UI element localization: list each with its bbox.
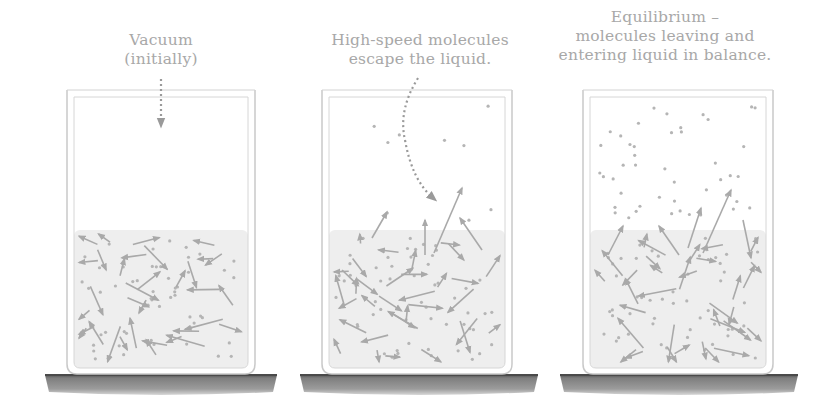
molecule <box>713 322 716 325</box>
molecule <box>94 357 97 360</box>
molecule <box>462 323 465 326</box>
molecule <box>427 263 430 266</box>
molecule <box>649 299 652 302</box>
vapor-molecule <box>732 208 735 211</box>
molecule <box>81 280 84 283</box>
molecule <box>185 342 188 345</box>
molecule <box>99 333 102 336</box>
vapor-molecule <box>729 174 732 177</box>
vapor-molecule <box>599 144 602 147</box>
molecule <box>657 255 660 258</box>
molecule <box>704 237 707 240</box>
molecule <box>635 257 638 260</box>
molecule <box>159 265 162 268</box>
molecule <box>636 295 639 298</box>
molecule <box>671 290 674 293</box>
molecule <box>374 300 377 303</box>
molecule <box>386 256 389 259</box>
molecule <box>173 290 176 293</box>
molecule <box>743 301 746 304</box>
molecule <box>104 331 107 334</box>
vapor-molecule <box>443 139 446 142</box>
molecule <box>388 277 391 280</box>
vapor-molecule <box>707 118 710 121</box>
molecule <box>114 284 117 287</box>
molecule <box>672 302 675 305</box>
molecule <box>466 311 469 314</box>
molecule <box>361 237 364 240</box>
molecule <box>348 262 351 265</box>
molecule <box>723 270 726 273</box>
molecule <box>98 266 101 269</box>
molecule <box>136 279 139 282</box>
molecule <box>199 315 202 318</box>
vapor-molecule <box>680 130 683 133</box>
molecule <box>155 265 158 268</box>
vapor-molecule <box>638 205 641 208</box>
molecule <box>420 301 423 304</box>
molecule <box>686 336 689 339</box>
molecule <box>349 254 352 257</box>
molecule <box>742 324 745 327</box>
vapor-molecule <box>613 206 616 209</box>
molecule <box>650 249 653 252</box>
molecule <box>187 271 190 274</box>
beaker-equilibrium <box>583 90 773 374</box>
molecule <box>168 239 171 242</box>
molecule <box>727 328 730 331</box>
molecule <box>169 296 172 299</box>
molecule <box>756 250 759 253</box>
molecule <box>173 294 176 297</box>
molecule <box>707 309 710 312</box>
vapor-molecule <box>705 188 708 191</box>
molecule <box>640 296 643 299</box>
velocity-arrow <box>198 259 213 260</box>
molecule <box>217 355 220 358</box>
vapor-molecule <box>634 163 637 166</box>
vapor-molecule <box>489 208 492 211</box>
molecule <box>472 328 475 331</box>
molecule <box>754 356 757 359</box>
vapor-molecule <box>673 200 676 203</box>
molecule <box>228 341 231 344</box>
molecule <box>230 355 233 358</box>
vapor-molecule <box>663 167 666 170</box>
molecule <box>379 308 382 311</box>
molecule <box>99 291 102 294</box>
molecule <box>167 277 170 280</box>
molecule <box>611 314 614 317</box>
vapor-molecule <box>612 177 615 180</box>
vapor-molecule <box>386 141 389 144</box>
vapor-molecule <box>719 178 722 181</box>
vapor-molecule <box>735 200 738 203</box>
velocity-arrow <box>360 234 361 243</box>
shelf <box>300 375 538 395</box>
vapor-molecule <box>748 206 751 209</box>
molecule <box>375 266 378 269</box>
velocity-arrow <box>334 271 349 272</box>
vapor-molecule <box>622 164 625 167</box>
molecule <box>661 298 664 301</box>
molecule <box>719 262 722 265</box>
molecule <box>123 330 126 333</box>
molecule <box>188 315 191 318</box>
molecule <box>379 279 382 282</box>
molecule <box>714 256 717 259</box>
molecule <box>338 274 341 277</box>
molecule <box>660 343 663 346</box>
molecule <box>471 358 474 361</box>
molecule <box>150 339 153 342</box>
vapor-molecule <box>665 112 668 115</box>
vapor-molecule <box>737 175 740 178</box>
vapor-molecule <box>614 211 617 214</box>
molecule <box>427 348 430 351</box>
molecule <box>653 317 656 320</box>
molecule <box>429 317 432 320</box>
molecule <box>628 312 631 315</box>
shelf <box>560 375 798 395</box>
molecule <box>478 352 481 355</box>
vapor-molecule <box>688 213 691 216</box>
molecule <box>356 323 359 326</box>
vapor-molecule <box>633 145 636 148</box>
vapor-molecule <box>619 134 622 137</box>
